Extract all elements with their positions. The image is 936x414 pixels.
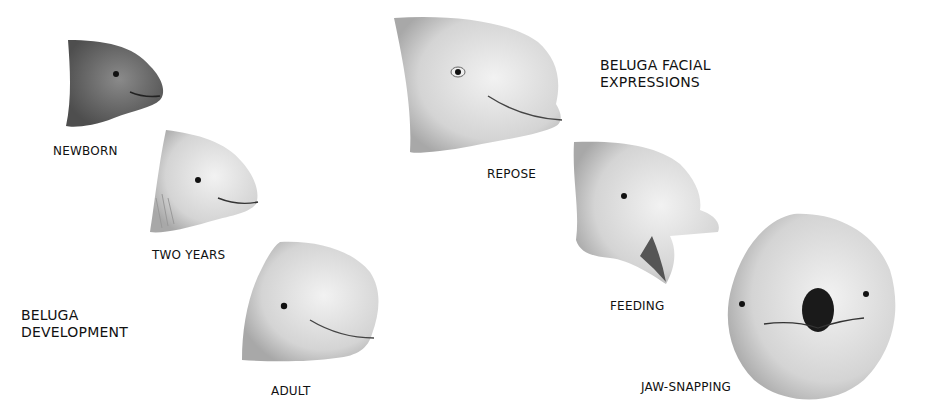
- jaw-snapping-beluga-illustration: [724, 210, 900, 404]
- two-years-beluga-illustration: [148, 128, 262, 236]
- expressions-title-line2: EXPRESSIONS: [600, 74, 711, 91]
- adult-label: ADULT: [271, 384, 311, 398]
- jaw-snapping-label: JAW-SNAPPING: [641, 380, 731, 394]
- feeding-label: FEEDING: [610, 299, 665, 313]
- repose-beluga-illustration: [392, 14, 568, 156]
- feeding-beluga-illustration: [570, 140, 722, 286]
- development-title-line1: BELUGA: [21, 307, 128, 324]
- two-years-label: TWO YEARS: [152, 248, 225, 262]
- expressions-title: BELUGA FACIAL EXPRESSIONS: [600, 57, 711, 91]
- development-title-line2: DEVELOPMENT: [21, 324, 128, 341]
- newborn-beluga-illustration: [64, 38, 168, 130]
- newborn-label: NEWBORN: [53, 144, 118, 158]
- development-title: BELUGA DEVELOPMENT: [21, 307, 128, 341]
- repose-label: REPOSE: [487, 167, 536, 181]
- expressions-title-line1: BELUGA FACIAL: [600, 57, 711, 74]
- adult-beluga-illustration: [240, 238, 380, 366]
